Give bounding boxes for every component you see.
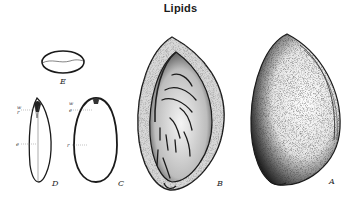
annotation-r: r	[67, 142, 70, 148]
label-b: B	[216, 179, 223, 188]
panel-e: E	[42, 51, 84, 86]
panel-c: w e r C	[67, 98, 124, 188]
label-a: A	[328, 177, 335, 186]
label-c: C	[118, 179, 124, 188]
seed-illustration: E w r e D w e r C	[0, 0, 361, 201]
label-e: E	[59, 77, 66, 86]
annotation-w: w	[69, 100, 74, 106]
panel-b: B	[138, 37, 224, 190]
panel-d: w r e D	[16, 98, 59, 188]
annotation-e: e	[16, 141, 19, 147]
label-d: D	[51, 179, 59, 188]
annotation-e: e	[69, 107, 72, 113]
panel-a: A	[251, 34, 340, 186]
